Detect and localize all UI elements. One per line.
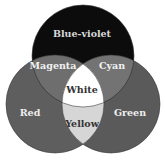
label-red: Red [20,107,41,118]
label-green: Green [114,107,146,118]
venn-svg: Blue-violet Magenta Cyan White Red Green… [0,0,165,167]
label-magenta: Magenta [30,60,77,71]
label-white: White [65,84,98,95]
label-yellow: Yellow [64,118,100,129]
venn-diagram: Blue-violet Magenta Cyan White Red Green… [0,0,165,167]
label-blue-violet: Blue-violet [53,28,112,39]
label-cyan: Cyan [99,60,125,71]
